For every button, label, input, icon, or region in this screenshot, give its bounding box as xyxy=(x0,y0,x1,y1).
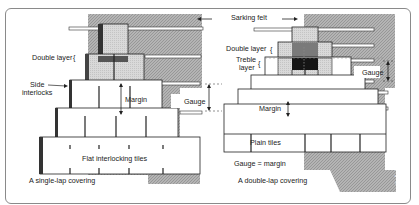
side-interlocks-label-2: interlocks xyxy=(22,88,53,97)
tiles-label-right: Plain tiles xyxy=(250,138,281,147)
gauge-label-right: Gauge xyxy=(362,68,384,77)
svg-text:{: { xyxy=(258,59,261,68)
batten xyxy=(160,82,200,85)
gauge-equals-margin: Gauge = margin xyxy=(234,159,286,168)
svg-text:{: { xyxy=(73,53,76,62)
caption-double-lap: A double-lap covering xyxy=(238,176,307,185)
double-layer-label-right: Double layer xyxy=(226,44,267,53)
caption-single-lap: A single-lap covering xyxy=(29,176,95,185)
tiles-label-left: Flat interlocking tiles xyxy=(82,154,148,163)
single-lap-diagram: Gauge Margin Double layer { Side interlo… xyxy=(22,14,209,185)
svg-text:{: { xyxy=(270,45,273,54)
double-lap-diagram: Sarking felt Double layer { Treble layer… xyxy=(224,13,396,192)
photo-credit: © John Wickesham xyxy=(394,123,403,186)
batten xyxy=(145,55,201,58)
double-layer-overlap xyxy=(98,56,128,62)
margin-label-right: Margin xyxy=(259,104,281,113)
batten xyxy=(180,111,202,114)
double-layer-label-left: Double layer xyxy=(32,53,73,62)
tile xyxy=(100,24,128,55)
roof-tiling-diagram: Gauge Margin Double layer { Side interlo… xyxy=(0,0,419,205)
margin-label-left: Margin xyxy=(125,95,147,104)
batten xyxy=(69,27,203,30)
sarking-felt-label: Sarking felt xyxy=(231,13,267,22)
gauge-label-left: Gauge xyxy=(184,97,206,106)
treble-layer-label-2: layer xyxy=(239,63,255,72)
